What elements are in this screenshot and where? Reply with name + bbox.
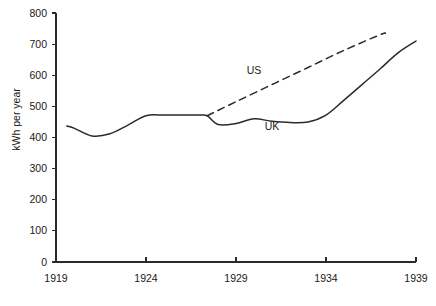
series-line-uk — [67, 41, 416, 136]
y-axis-title: kWh per year — [10, 88, 22, 151]
chart-container: 0100200300400500600700800 kWh per year 1… — [0, 0, 436, 306]
series-annotations: UKUS — [247, 64, 280, 132]
x-tick-label: 1924 — [134, 272, 158, 284]
x-tick-label: 1929 — [224, 272, 248, 284]
y-tick-label: 0 — [41, 256, 47, 268]
y-tick-label: 500 — [29, 100, 47, 112]
series-line-us — [207, 33, 385, 116]
x-tick-label: 1919 — [44, 272, 68, 284]
y-axis-tick-labels: 0100200300400500600700800 — [29, 7, 47, 268]
y-tick-label: 600 — [29, 69, 47, 81]
y-tick-label: 200 — [29, 193, 47, 205]
x-axis: 19191924192919341939 — [44, 257, 428, 284]
y-tick-label: 400 — [29, 131, 47, 143]
x-axis-tick-labels: 19191924192919341939 — [44, 272, 428, 284]
x-axis-ticks — [146, 257, 416, 262]
y-axis-ticks — [52, 13, 56, 262]
series-label-uk: UK — [265, 120, 280, 132]
series-label-us: US — [247, 64, 262, 76]
x-tick-label: 1934 — [314, 272, 338, 284]
y-tick-label: 800 — [29, 7, 47, 19]
y-axis: 0100200300400500600700800 kWh per year — [10, 7, 56, 268]
series-lines — [67, 33, 416, 136]
line-chart: 0100200300400500600700800 kWh per year 1… — [0, 0, 436, 306]
y-tick-label: 300 — [29, 162, 47, 174]
y-tick-label: 700 — [29, 38, 47, 50]
x-tick-label: 1939 — [404, 272, 428, 284]
y-tick-label: 100 — [29, 224, 47, 236]
